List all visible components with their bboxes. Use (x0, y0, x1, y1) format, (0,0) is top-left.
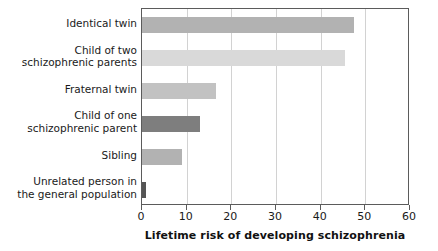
tick-label-30: 30 (255, 210, 295, 223)
tick-label-20: 20 (210, 210, 250, 223)
bar (142, 83, 216, 99)
bar (142, 182, 146, 198)
bars-layer (142, 9, 408, 204)
y-axis-category-labels: Identical twinChild of two schizophrenic… (0, 8, 137, 205)
y-axis-label: Sibling (0, 149, 137, 162)
plot-area (141, 8, 409, 205)
bar-chart: Identical twinChild of two schizophrenic… (0, 0, 438, 251)
tick-label-10: 10 (166, 210, 206, 223)
bar (142, 116, 200, 132)
y-axis-label: Fraternal twin (0, 83, 137, 96)
tick-label-0: 0 (121, 210, 161, 223)
bar (142, 50, 345, 66)
x-axis-title: Lifetime risk of developing schizophreni… (141, 229, 409, 242)
tick-label-60: 60 (389, 210, 429, 223)
bar (142, 17, 354, 33)
y-axis-label: Identical twin (0, 17, 137, 30)
y-axis-label: Child of one schizophrenic parent (0, 109, 137, 134)
y-axis-label: Unrelated person in the general populati… (0, 175, 137, 200)
y-axis-label: Child of two schizophrenic parents (0, 44, 137, 69)
tick-label-50: 50 (344, 210, 384, 223)
bar (142, 149, 182, 165)
tick-label-40: 40 (300, 210, 340, 223)
